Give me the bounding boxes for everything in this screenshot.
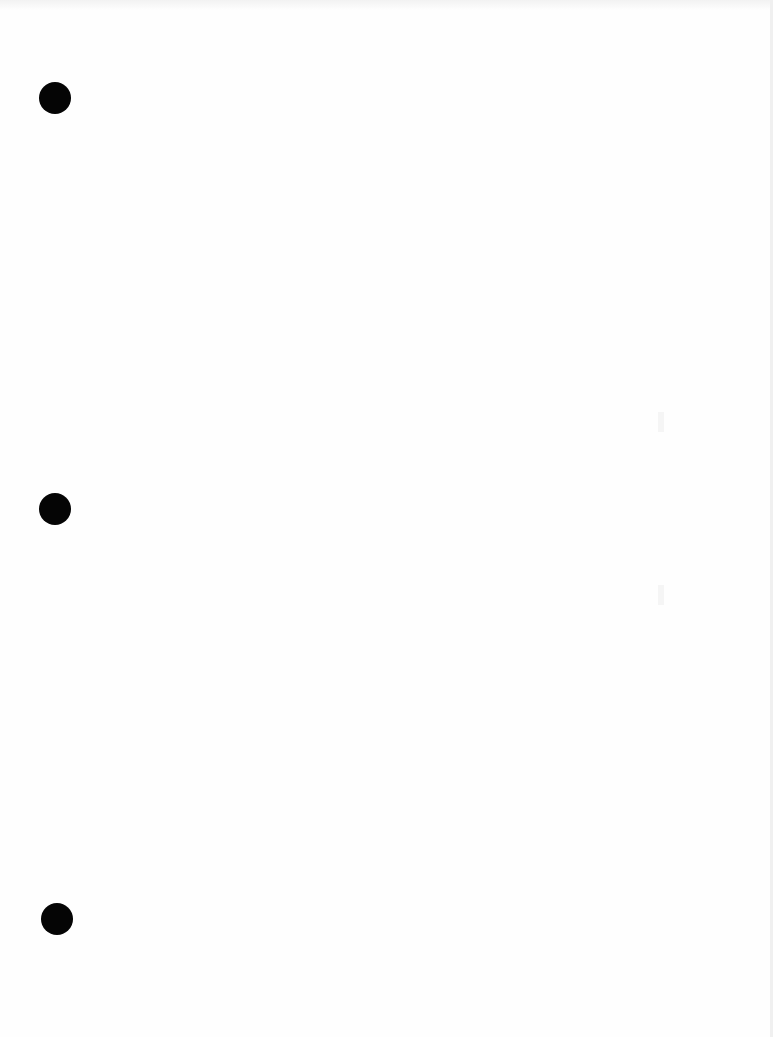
punch-hole-top — [39, 82, 71, 114]
bleed-through-mark — [658, 412, 664, 432]
blank-page — [0, 0, 773, 1037]
punch-hole-bottom — [41, 903, 73, 935]
punch-hole-middle — [39, 493, 71, 525]
scan-top-shadow — [0, 0, 773, 10]
bleed-through-mark — [658, 585, 664, 605]
